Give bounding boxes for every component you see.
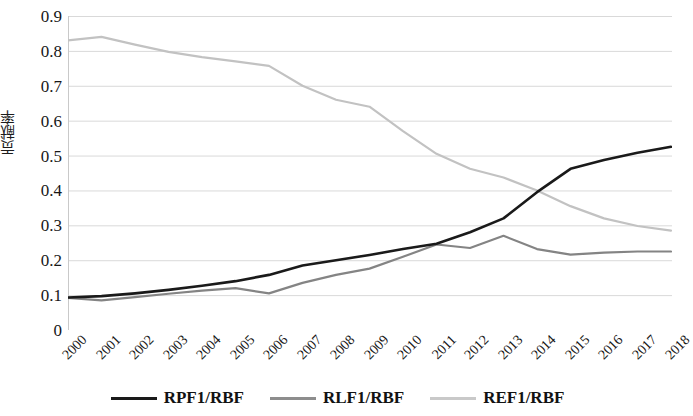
legend-swatch [430,397,476,400]
y-axis-tick: 0.5 [20,147,62,164]
legend-item[interactable]: REF1/RBF [430,388,564,408]
x-axis-tick: 2000 [59,332,90,363]
legend-item[interactable]: RPF1/RBF [111,388,244,408]
x-axis-tick: 2016 [595,332,626,363]
x-axis-tick: 2004 [193,332,224,363]
x-axis-tick: 2018 [662,332,693,363]
series-line-rpf1-rbf [68,147,671,298]
x-axis-tick: 2009 [361,332,392,363]
y-axis-tick: 0.4 [20,182,62,199]
x-axis-tick: 2011 [429,332,460,363]
y-axis-tick: 0.6 [20,112,62,129]
x-axis-tick: 2010 [394,332,425,363]
x-axis-tick: 2012 [461,332,492,363]
legend-label: REF1/RBF [483,388,564,408]
y-axis-tick: 0.2 [20,252,62,269]
y-axis-tick: 0.7 [20,77,62,94]
y-axis-tick: 0.8 [20,42,62,59]
series-line-ref1-rbf [68,37,671,231]
plot-area [68,16,672,330]
x-axis-tick: 2013 [495,332,526,363]
x-axis-tick: 2015 [562,332,593,363]
x-axis-tick: 2017 [629,332,660,363]
legend-swatch [270,397,316,400]
y-axis-tick: 0.1 [20,287,62,304]
x-axis-tick: 2008 [327,332,358,363]
legend-label: RPF1/RBF [164,388,244,408]
plot-svg [68,16,672,330]
x-axis-tick: 2002 [126,332,157,363]
x-axis-tick: 2006 [260,332,291,363]
chart-legend: RPF1/RBFRLF1/RBFREF1/RBF [0,388,675,408]
x-axis-tick-labels: 2000200120022003200420052006200720082009… [0,330,675,386]
x-axis-tick: 2003 [160,332,191,363]
legend-label: RLF1/RBF [323,388,404,408]
x-axis-tick: 2007 [294,332,325,363]
x-axis-tick: 2014 [528,332,559,363]
y-axis-tick: 0.9 [20,8,62,25]
y-axis-tick: 0.3 [20,217,62,234]
legend-swatch [111,397,157,400]
x-axis-tick: 2005 [227,332,258,363]
legend-item[interactable]: RLF1/RBF [270,388,404,408]
y-axis-tick-labels: 0.90.80.70.60.50.40.30.20.10 [22,0,66,340]
y-axis-title: 贡献率 [0,110,22,155]
x-axis-tick: 2001 [93,332,124,363]
